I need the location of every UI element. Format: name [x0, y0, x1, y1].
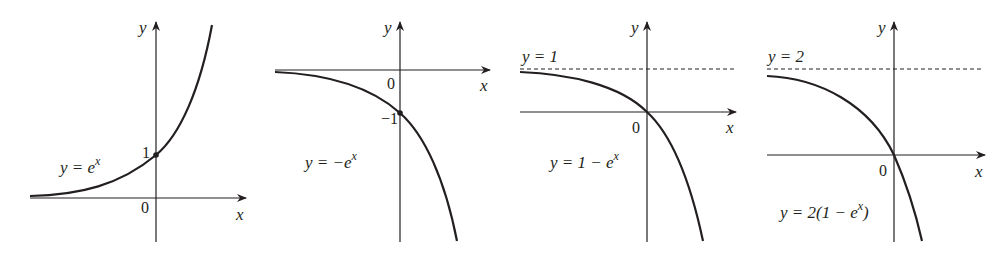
point-marker — [153, 152, 159, 158]
panel-neg-exp: y x 0 −1 y = −ex — [275, 18, 490, 242]
asymptote-label: y = 1 — [520, 47, 558, 66]
y-axis-label: y — [137, 18, 147, 37]
curve-exp — [30, 25, 212, 196]
equation-label: y = ex — [58, 154, 101, 177]
x-axis-label: x — [974, 162, 983, 181]
panel-exp: y x 0 1 y = ex — [30, 18, 246, 242]
origin-label: 0 — [141, 199, 149, 216]
asymptote-label: y = 2 — [766, 47, 805, 66]
point-label: −1 — [381, 110, 398, 127]
x-axis-label: x — [235, 205, 244, 224]
origin-label: 0 — [632, 119, 640, 136]
y-axis-label: y — [876, 18, 886, 37]
origin-label: 0 — [387, 75, 395, 92]
panel-one-minus-exp: y x 0 y = 1 y = 1 − ex — [520, 18, 736, 242]
y-axis-label: y — [382, 18, 392, 37]
x-axis-label: x — [725, 118, 734, 137]
point-marker — [397, 110, 403, 116]
origin-label: 0 — [879, 162, 887, 179]
equation-label: y = 2(1 − ex) — [778, 199, 869, 222]
y-axis-label: y — [629, 18, 639, 37]
point-label: 1 — [142, 144, 150, 161]
x-axis-label: x — [479, 76, 488, 95]
exponential-transformations-figure: y x 0 1 y = ex y x 0 −1 y = −ex y x 0 y … — [0, 0, 1005, 265]
equation-label: y = −ex — [303, 149, 358, 172]
panel-two-one-minus-exp: y x 0 y = 2 y = 2(1 − ex) — [766, 18, 985, 242]
equation-label: y = 1 − ex — [548, 149, 620, 172]
curve-neg-exp — [275, 72, 457, 241]
